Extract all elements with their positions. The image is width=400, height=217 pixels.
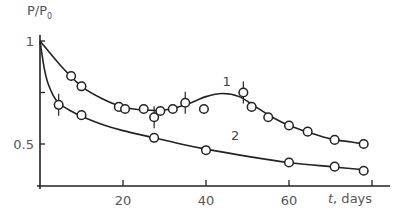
x-axis-label: t, days: [328, 191, 372, 206]
data-point-marker: [239, 88, 248, 97]
data-point-marker: [139, 105, 148, 114]
chart-canvas: 2040600.5112: [0, 0, 400, 217]
data-point-marker: [54, 101, 63, 110]
data-point-marker: [264, 113, 273, 122]
data-point-marker: [77, 82, 86, 91]
data-point-marker: [169, 105, 178, 114]
series-1-curve: [40, 41, 364, 144]
data-point-marker: [77, 111, 86, 120]
x-tick-label: 20: [115, 193, 132, 208]
data-point-marker: [121, 105, 130, 114]
data-point-marker: [200, 105, 209, 114]
data-point-marker: [202, 146, 211, 155]
data-point-marker: [359, 140, 368, 149]
data-point-marker: [181, 99, 190, 108]
y-axis-label: P/P0: [27, 3, 52, 21]
data-point-marker: [285, 158, 294, 167]
data-point-marker: [303, 127, 312, 136]
y-tick-label: 0.5: [13, 137, 34, 152]
y-tick-label: 1: [26, 34, 34, 49]
series-label: 2: [231, 128, 239, 143]
data-point-marker: [150, 134, 159, 143]
data-point-marker: [330, 136, 339, 145]
data-point-marker: [247, 103, 256, 112]
x-tick-label: 60: [281, 193, 298, 208]
series-label: 1: [223, 74, 231, 89]
data-point-marker: [359, 166, 368, 175]
data-point-marker: [156, 107, 165, 116]
data-point-marker: [67, 72, 76, 81]
data-point-marker: [285, 121, 294, 130]
data-point-marker: [330, 162, 339, 171]
x-tick-label: 40: [198, 193, 215, 208]
